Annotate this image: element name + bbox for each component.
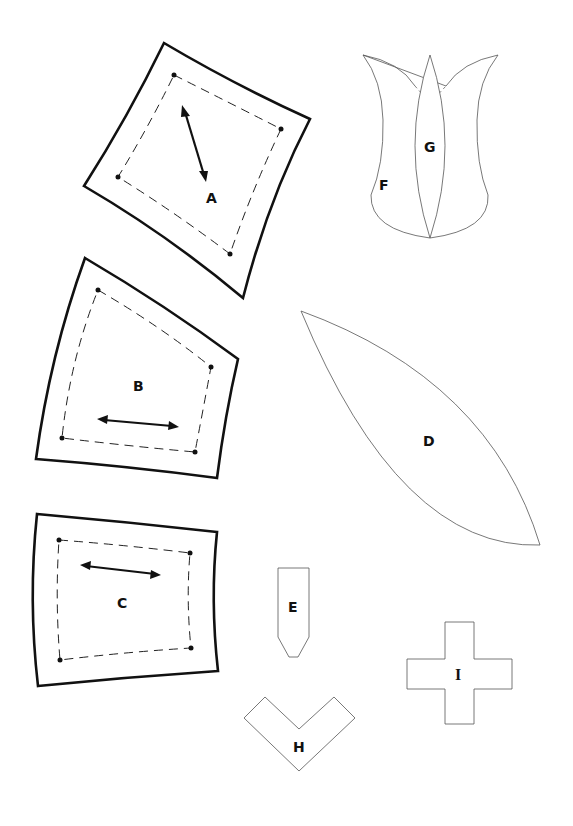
label-e: E [288,599,298,615]
label-g: G [424,139,436,155]
label-h: H [293,739,305,755]
label-i: I [455,666,461,683]
piece-f-tulip: F G [363,55,498,238]
pattern-sheet: A B C F G D [0,0,573,826]
piece-d-leaf: D [301,311,540,545]
label-f: F [379,177,389,193]
piece-c: C [33,514,218,686]
label-d: D [423,433,435,449]
piece-a: A [84,43,310,298]
label-b: B [133,378,144,394]
label-a: A [206,190,217,206]
label-c: C [117,595,127,611]
piece-e-stem: E [278,568,309,657]
piece-h-chevron: H [244,697,355,771]
piece-i-cross: I [407,622,512,724]
piece-b: B [36,258,238,478]
